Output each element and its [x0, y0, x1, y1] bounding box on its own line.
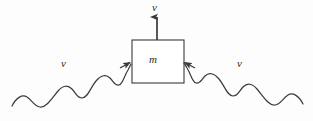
photon-arrow-left: [120, 63, 130, 69]
photon-wave-right: [184, 63, 303, 105]
physics-figure: m v ν ν: [0, 0, 313, 121]
photon-wave-left: [12, 64, 131, 107]
mass-box: [132, 40, 184, 83]
velocity-label: v: [152, 1, 157, 13]
photon-label-left: ν: [61, 57, 66, 69]
mass-label: m: [149, 53, 157, 65]
photon-label-right: ν: [237, 57, 242, 69]
